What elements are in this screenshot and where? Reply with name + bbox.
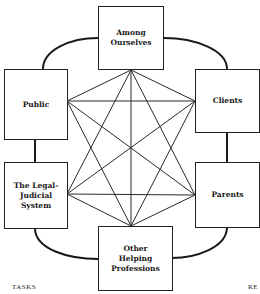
node-legal-judicial-system: The Legal- Judicial System <box>4 162 68 229</box>
caption-right: RE <box>248 283 258 291</box>
node-label: Other Helping Professions <box>111 244 160 274</box>
node-label: Clients <box>213 96 243 106</box>
node-among-ourselves: Among Ourselves <box>98 6 164 70</box>
node-label: The Legal- Judicial System <box>14 181 59 211</box>
caption-left: TASKS <box>12 283 36 291</box>
node-clients: Clients <box>195 69 260 133</box>
node-parents: Parents <box>195 162 260 228</box>
node-label: Parents <box>211 190 243 200</box>
node-label: Public <box>23 100 50 110</box>
node-public: Public <box>4 69 68 140</box>
node-other-helping-professions: Other Helping Professions <box>98 226 173 291</box>
inner-network <box>67 70 195 226</box>
node-label: Among Ourselves <box>110 28 151 48</box>
